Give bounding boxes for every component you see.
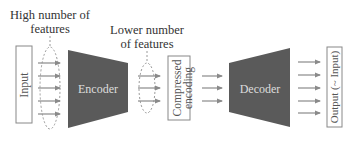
autoencoder-diagram: High number of features Lower number of …: [0, 0, 356, 142]
decoder-label: Decoder: [240, 82, 281, 96]
high-features-label-line1: High number of: [10, 8, 91, 22]
decoder-input-arrows: [202, 76, 222, 101]
encoder-output-arrows: [138, 76, 160, 101]
output-arrows: [298, 62, 320, 113]
encoder-label: Encoder: [78, 82, 118, 96]
output-label: Output (~ Input): [328, 50, 341, 123]
input-label: Input: [17, 72, 31, 98]
high-features-label-line2: features: [30, 22, 70, 36]
lower-features-label-line2: of features: [120, 37, 173, 51]
compressed-label-line2: encoding: [182, 67, 195, 109]
lower-features-label-line1: Lower number: [110, 23, 185, 37]
